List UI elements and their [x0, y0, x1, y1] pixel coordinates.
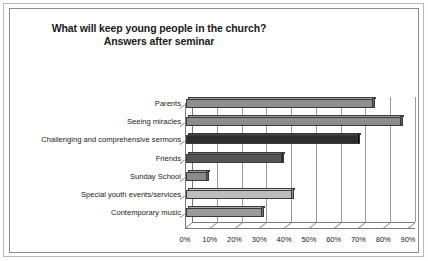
x-axis-line	[192, 222, 415, 223]
x-axis-tick-label: 60%	[321, 235, 347, 244]
x-axis-tick-label: 10%	[197, 235, 223, 244]
bar-end-cap	[206, 170, 209, 181]
bar-end-cap	[291, 188, 294, 199]
bar-end-cap	[357, 133, 360, 144]
chart-frame: What will keep young people in the churc…	[9, 8, 419, 253]
bar	[186, 208, 263, 217]
bar-top-face	[188, 133, 361, 135]
bar	[186, 172, 208, 181]
bar	[186, 190, 293, 199]
x-axis-tick-label: 70%	[345, 235, 371, 244]
category-label: Challenging and comprehensive sermons	[0, 135, 181, 144]
x-axis-tick-label: 20%	[222, 235, 248, 244]
category-label: Contemporary music	[0, 208, 181, 217]
bar-top-face	[188, 97, 376, 99]
bar-face	[186, 117, 402, 126]
bar	[186, 135, 359, 144]
bar-top-face	[188, 115, 404, 117]
category-label: Special youth events/services	[0, 190, 181, 199]
x-axis-tick-label: 50%	[296, 235, 322, 244]
bar-face	[186, 190, 293, 199]
bar-top-face	[188, 152, 285, 154]
bar-face	[186, 154, 283, 163]
x-axis-front-edge	[185, 228, 415, 229]
bar	[186, 117, 402, 126]
category-label: Seeing miracles	[0, 117, 181, 126]
bar-end-cap	[372, 97, 375, 108]
category-label: Parents	[0, 99, 181, 108]
x-axis-tick-label: 30%	[246, 235, 272, 244]
category-label: Sunday School	[0, 172, 181, 181]
x-axis-tick-label: 80%	[370, 235, 396, 244]
bar-face	[186, 135, 359, 144]
page-background: What will keep young people in the churc…	[0, 0, 428, 261]
bar-face	[186, 99, 374, 108]
bar-top-face	[188, 206, 265, 208]
category-label: Friends	[0, 154, 181, 163]
bar	[186, 99, 374, 108]
bar-end-cap	[281, 152, 284, 163]
bar	[186, 154, 283, 163]
bar-end-cap	[261, 206, 264, 217]
x-axis-tick-label: 90%	[395, 235, 421, 244]
plot-area: 0%10%20%30%40%50%60%70%80%90%ParentsSeei…	[10, 9, 428, 261]
x-axis-tick-label: 40%	[271, 235, 297, 244]
gridline-90pct	[415, 97, 416, 222]
bar-top-face	[188, 188, 295, 190]
x-axis-tick-label: 0%	[172, 235, 198, 244]
bar-face	[186, 172, 208, 181]
bar-end-cap	[400, 115, 403, 126]
bar-face	[186, 208, 263, 217]
